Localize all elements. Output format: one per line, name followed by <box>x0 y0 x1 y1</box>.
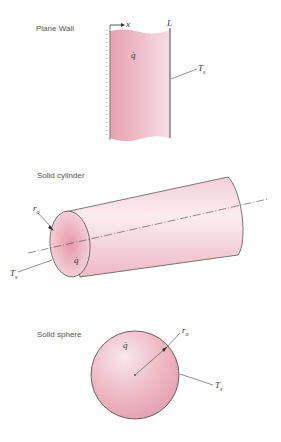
ro-label-sph: ro <box>182 325 189 337</box>
ts-leader-line <box>171 69 197 79</box>
plane-wall-figure <box>107 23 197 141</box>
sphere-title: Solid sphere <box>37 330 81 339</box>
ts-leader-cyl <box>18 260 52 272</box>
ts-label-wall: Ts <box>198 63 205 75</box>
ts-label-sph: Ts <box>215 380 222 392</box>
solid-sphere-figure <box>91 331 213 419</box>
L-label: L <box>167 18 172 28</box>
solid-cylinder-figure <box>18 177 268 279</box>
ts-label-cyl: Ts <box>10 268 17 280</box>
cylinder-title: Solid cylinder <box>37 171 85 180</box>
diagram-canvas <box>0 0 281 442</box>
ts-leader-sph <box>180 374 213 385</box>
q-dot-label-wall: q̇ <box>131 50 136 60</box>
q-dot-label-sph: q̇ <box>123 340 128 350</box>
ro-label-cyl: ro <box>33 203 40 215</box>
q-dot-label-cyl: q̇ <box>74 255 79 265</box>
x-label: x <box>126 19 130 29</box>
plane-wall-title: Plane Wall <box>36 24 74 33</box>
